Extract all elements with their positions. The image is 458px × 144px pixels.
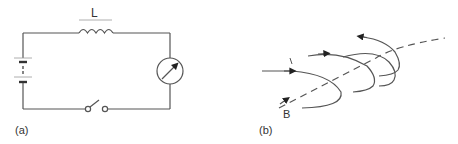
loop-arrow-4-icon [360, 37, 367, 38]
meter-icon [157, 58, 183, 84]
inductor-label: L [91, 6, 98, 20]
loop-arrow-2-icon [318, 54, 327, 55]
field-label-b: B [283, 108, 290, 120]
battery-icon [14, 58, 32, 82]
panel-a-label: (a) [15, 124, 28, 136]
figure-canvas: L (a) B (b) [0, 0, 458, 144]
helix-diagram [262, 37, 445, 109]
panel-b-label: (b) [259, 124, 272, 136]
field-axis-arrow-icon [280, 99, 287, 104]
field-loop-2 [308, 54, 375, 92]
circuit-diagram [14, 20, 183, 112]
switch-icon [85, 100, 107, 112]
inductor-icon [79, 30, 113, 34]
field-loop-1 [262, 71, 341, 108]
tick-icon [290, 58, 292, 64]
